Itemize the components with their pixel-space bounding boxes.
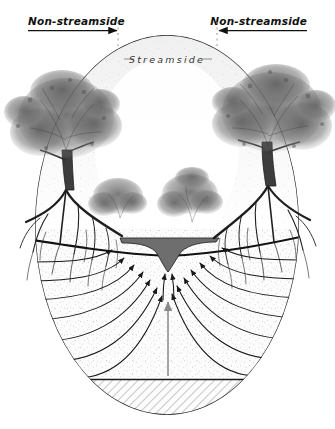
center-zone-label-group: Streamside — [124, 54, 212, 65]
center-zone-label: Streamside — [129, 54, 205, 65]
right-zone-label: Non-streamside — [210, 15, 307, 27]
left-zone-label: Non-streamside — [28, 15, 125, 27]
riparian-cross-section-figure: Non-streamside Non-streamside — [0, 0, 335, 429]
